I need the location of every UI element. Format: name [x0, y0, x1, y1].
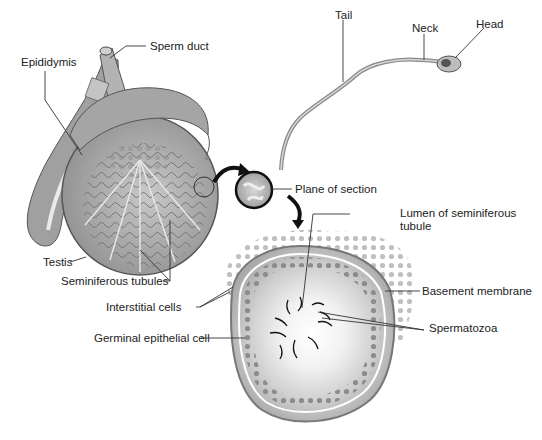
label-germinal-epithelial-cell: Germinal epithelial cell	[94, 332, 210, 345]
label-lumen-line1: Lumen of seminiferous	[400, 207, 516, 220]
label-tail: Tail	[335, 9, 352, 22]
sperm-cell	[281, 56, 461, 170]
label-plane-of-section: Plane of section	[295, 183, 377, 196]
label-basement-membrane: Basement membrane	[422, 285, 532, 298]
label-seminiferous-tubules: Seminiferous tubules	[61, 275, 168, 288]
label-epididymis: Epididymis	[21, 56, 77, 69]
label-head: Head	[476, 18, 504, 31]
magnified-section-circle	[236, 172, 272, 208]
label-testis: Testis	[43, 256, 72, 269]
label-spermatozoa: Spermatozoa	[429, 322, 497, 335]
label-lumen-line2: tubule	[400, 220, 431, 233]
diagram-artwork	[0, 0, 542, 440]
label-sperm-duct: Sperm duct	[150, 40, 209, 53]
reproductive-diagram: Sperm duct Epididymis Testis Seminiferou…	[0, 0, 542, 440]
label-neck: Neck	[412, 22, 438, 35]
label-interstitial-cells: Interstitial cells	[106, 301, 181, 314]
section-arrows	[214, 163, 304, 229]
testis-illustration	[27, 47, 218, 275]
